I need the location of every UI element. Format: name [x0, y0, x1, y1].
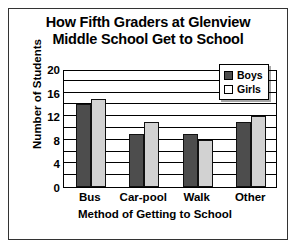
y-axis-tick-labels: 048121620 [40, 70, 60, 188]
bar-car-pool-girls [144, 122, 159, 187]
y-tick-label: 12 [40, 111, 60, 123]
chart-title: How Fifth Graders at Glenview Middle Sch… [14, 14, 282, 48]
legend-swatch-icon-boys [224, 71, 233, 80]
x-tick-label-other: Other [235, 191, 266, 203]
y-tick-label: 0 [40, 182, 60, 194]
bar-bus-boys [76, 104, 91, 187]
bar-other-boys [236, 122, 251, 187]
x-tick-label-walk: Walk [184, 191, 210, 203]
legend-item-boys[interactable]: Boys [224, 68, 263, 82]
x-tick-label-bus: Bus [79, 191, 101, 203]
legend-item-girls[interactable]: Girls [224, 82, 263, 96]
legend-swatch-icon-girls [224, 85, 233, 94]
chart-title-line-1: How Fifth Graders at Glenview [14, 14, 282, 31]
bar-group [183, 71, 213, 187]
x-axis-title: Method of Getting to School [30, 208, 280, 220]
bar-car-pool-boys [129, 134, 144, 187]
bar-other-girls [251, 116, 266, 187]
bar-bus-girls [91, 99, 106, 188]
legend-label: Boys [237, 69, 263, 81]
y-tick-label: 4 [40, 158, 60, 170]
chart-screenshot: How Fifth Graders at Glenview Middle Sch… [0, 0, 300, 252]
x-tick-label-car-pool: Car-pool [120, 191, 167, 203]
y-tick-label: 8 [40, 135, 60, 147]
bar-group [129, 71, 159, 187]
y-tick-label: 16 [40, 88, 60, 100]
bar-group [76, 71, 106, 187]
y-tick-label: 20 [40, 64, 60, 76]
legend: BoysGirls [219, 64, 269, 100]
bar-walk-boys [183, 134, 198, 187]
bar-walk-girls [198, 140, 213, 187]
legend-label: Girls [237, 83, 261, 95]
chart-title-line-2: Middle School Get to School [14, 31, 282, 48]
x-axis-tick-labels: BusCar-poolWalkOther [63, 191, 277, 207]
